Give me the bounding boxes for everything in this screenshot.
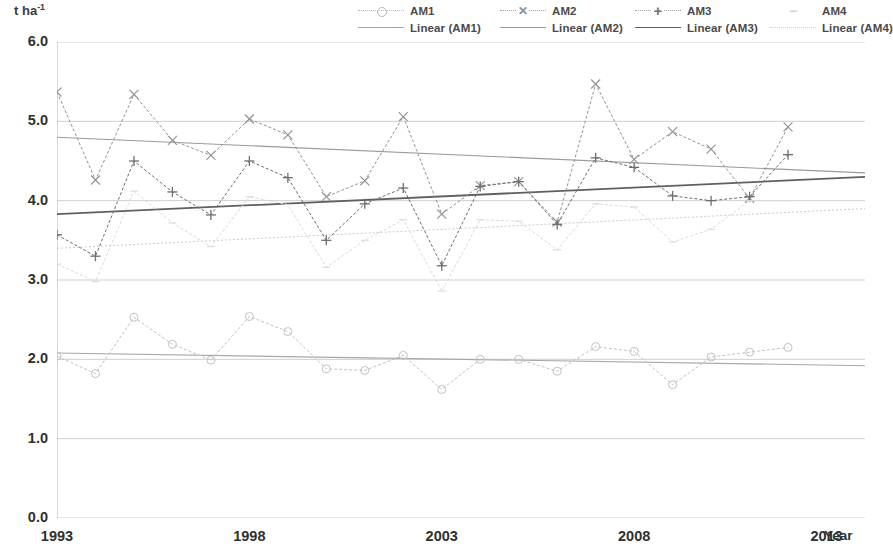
data-point-marker [129, 90, 138, 99]
data-point-marker [360, 176, 369, 185]
legend-row-trendlines: Linear (AM1) Linear (AM2) Linear (AM3) L… [330, 19, 873, 36]
legend-label-am3: AM3 [687, 5, 712, 17]
y-axis-tick-label: 3.0 [0, 271, 48, 287]
data-point-marker [206, 210, 216, 220]
data-point-marker [706, 196, 716, 206]
data-point-marker [552, 219, 562, 229]
legend-item-am4[interactable]: − AM4 [770, 2, 847, 19]
data-point-marker [244, 156, 254, 166]
chart-canvas [57, 42, 865, 518]
data-point-marker [438, 385, 446, 393]
legend-key-am4: − [770, 4, 816, 18]
legend-item-linear-am1[interactable]: Linear (AM1) [358, 19, 481, 36]
legend-item-am3[interactable]: + AM3 [635, 2, 712, 19]
y-axis-title-text: t ha [14, 3, 37, 18]
data-point-marker [707, 145, 716, 154]
legend-label-linear-am4: Linear (AM4) [822, 22, 893, 34]
dash-marker-icon: − [787, 5, 799, 17]
series-line [57, 155, 788, 266]
data-point-marker [668, 127, 677, 136]
data-point-marker [90, 251, 100, 261]
data-point-marker [206, 151, 215, 160]
x-axis-tick-label: 2013 [810, 528, 842, 544]
x-marker-icon: ✕ [517, 5, 529, 17]
y-axis-tick-label: 1.0 [0, 430, 48, 446]
chart-legend: AM1 ✕ AM2 + AM3 − [330, 2, 873, 36]
y-axis-tick-label: 6.0 [0, 33, 48, 49]
y-axis-tick-label: 4.0 [0, 192, 48, 208]
data-point-marker [399, 112, 408, 121]
data-point-marker [129, 156, 139, 166]
legend-item-am2[interactable]: ✕ AM2 [500, 2, 577, 19]
plot-area [57, 42, 865, 518]
legend-key-linear-am3 [635, 21, 681, 35]
data-point-marker [668, 191, 678, 201]
data-point-marker [784, 122, 793, 131]
legend-key-linear-am4 [770, 21, 816, 35]
data-point-marker [57, 87, 62, 96]
legend-key-am1 [358, 4, 404, 18]
x-axis-tick-label: 2003 [426, 528, 458, 544]
legend-item-linear-am3[interactable]: Linear (AM3) [635, 19, 758, 36]
data-point-marker [629, 162, 639, 172]
legend-label-linear-am3: Linear (AM3) [687, 22, 758, 34]
series-line [57, 191, 788, 291]
data-point-marker [398, 183, 408, 193]
data-point-marker [168, 136, 177, 145]
data-point-marker [284, 328, 292, 336]
legend-label-linear-am1: Linear (AM1) [410, 22, 481, 34]
plus-marker-icon: + [652, 5, 664, 17]
data-point-marker [207, 356, 215, 364]
data-point-marker [283, 130, 292, 139]
series-line [57, 316, 788, 389]
data-point-marker [283, 173, 293, 183]
y-axis-title: t ha-1 [14, 2, 45, 18]
x-axis-tick-label: 1993 [41, 528, 73, 544]
legend-label-linear-am2: Linear (AM2) [552, 22, 623, 34]
legend-label-am2: AM2 [552, 5, 577, 17]
legend-key-am2: ✕ [500, 4, 546, 18]
legend-key-linear-am1 [358, 21, 404, 35]
legend-key-am3: + [635, 4, 681, 18]
data-point-marker [322, 192, 331, 201]
legend-row-series: AM1 ✕ AM2 + AM3 − [330, 2, 873, 19]
data-point-marker [437, 261, 447, 271]
trendline [57, 209, 865, 249]
legend-item-linear-am4[interactable]: Linear (AM4) [770, 19, 893, 36]
legend-label-am4: AM4 [822, 5, 847, 17]
y-axis-tick-label: 0.0 [0, 509, 48, 525]
y-axis-tick-label: 2.0 [0, 350, 48, 366]
legend-item-linear-am2[interactable]: Linear (AM2) [500, 19, 623, 36]
circle-marker-icon [377, 7, 387, 17]
data-point-marker [245, 114, 254, 123]
data-point-marker [91, 176, 100, 185]
x-axis-tick-label: 1998 [233, 528, 265, 544]
legend-key-linear-am2 [500, 21, 546, 35]
y-axis-tick-label: 5.0 [0, 112, 48, 128]
legend-item-am1[interactable]: AM1 [358, 2, 435, 19]
data-point-marker [437, 210, 446, 219]
legend-label-am1: AM1 [410, 5, 435, 17]
data-point-marker [167, 187, 177, 197]
data-point-marker [57, 230, 62, 240]
data-point-marker [591, 80, 600, 89]
y-axis-title-exponent: -1 [37, 2, 45, 12]
x-axis-tick-label: 2008 [618, 528, 650, 544]
